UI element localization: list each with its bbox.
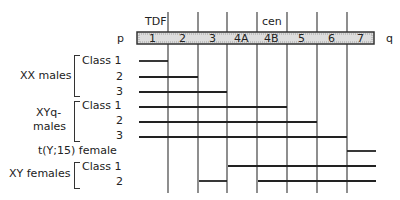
interval-5: 5 — [298, 33, 305, 45]
interval-4b: 4B — [264, 33, 279, 45]
row-label: 3 — [116, 130, 123, 142]
group-xy-females: XY females — [9, 168, 70, 180]
row-label: Class 1 — [82, 55, 121, 67]
interval-1: 1 — [149, 33, 156, 45]
interval-4a: 4A — [234, 33, 249, 45]
interval-3: 3 — [209, 33, 216, 45]
group-t-y15-female: t(Y;15) female — [38, 145, 117, 157]
interval-7: 7 — [357, 33, 364, 45]
group-xyq-males-line1: XYq- — [36, 107, 61, 119]
row-label: Class 1 — [82, 161, 121, 173]
row-label: 3 — [116, 86, 123, 98]
bracket — [74, 101, 80, 142]
interval-2: 2 — [179, 33, 186, 45]
row-label: 2 — [116, 176, 123, 188]
row-label: Class 1 — [82, 100, 121, 112]
group-xyq-males-line2: males — [33, 121, 66, 133]
group-xx-males: XX males — [20, 70, 72, 82]
interval-6: 6 — [328, 33, 335, 45]
p-arm-label: p — [117, 33, 124, 45]
q-arm-label: q — [386, 33, 393, 45]
bracket — [74, 162, 80, 189]
row-label: 2 — [116, 71, 123, 83]
row-label: 2 — [116, 115, 123, 127]
centromere-label: cen — [262, 16, 282, 28]
bracket — [74, 55, 80, 97]
tdf-label: TDF — [145, 16, 167, 28]
